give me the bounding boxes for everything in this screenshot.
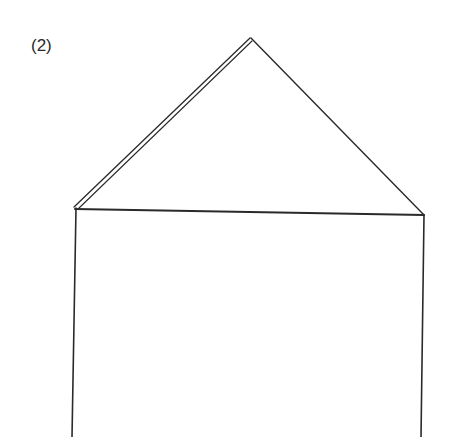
eave-line: [75, 209, 424, 215]
roof-right-edge: [251, 38, 424, 215]
right-wall: [421, 215, 424, 437]
roof-left-edge: [74, 38, 250, 207]
house-drawing: [0, 0, 457, 437]
roof-left-edge-inner: [78, 41, 252, 209]
left-wall: [72, 208, 76, 437]
